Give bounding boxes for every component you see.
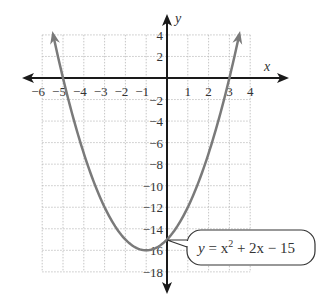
y-axis	[162, 14, 172, 294]
equation-label: y = x2 + 2x − 15	[196, 238, 295, 256]
svg-text:4: 4	[157, 28, 164, 43]
y-tick-labels: 42−2−4−6−8−10−12−14−16−18	[143, 28, 164, 280]
svg-text:−8: −8	[149, 157, 163, 172]
x-axis-label: x	[263, 59, 271, 74]
curve-arrowheads	[50, 31, 242, 45]
equation-callout: y = x2 + 2x − 15	[167, 230, 315, 265]
svg-text:−10: −10	[143, 179, 163, 194]
svg-text:−2: −2	[149, 93, 163, 108]
svg-text:−6: −6	[31, 84, 45, 99]
svg-text:1: 1	[185, 84, 192, 99]
y-axis-label: y	[173, 11, 182, 26]
graph: x y −6−5−4−3−2−11234 42−2−4−6−8−10−12−14…	[0, 0, 336, 303]
svg-text:−4: −4	[149, 114, 163, 129]
svg-text:−1: −1	[135, 84, 149, 99]
svg-text:−3: −3	[94, 84, 108, 99]
svg-text:−12: −12	[143, 200, 163, 215]
svg-text:−2: −2	[114, 84, 128, 99]
svg-text:2: 2	[157, 49, 164, 64]
svg-text:−6: −6	[149, 136, 163, 151]
svg-text:−18: −18	[143, 265, 163, 280]
svg-text:4: 4	[247, 84, 254, 99]
svg-text:−4: −4	[73, 84, 87, 99]
svg-text:2: 2	[205, 84, 212, 99]
svg-text:−14: −14	[143, 222, 164, 237]
